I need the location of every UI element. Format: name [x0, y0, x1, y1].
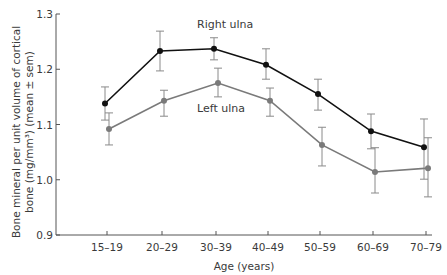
series-left-ulna: Left ulna [105, 68, 432, 197]
data-point-marker [372, 169, 378, 175]
data-point-marker [215, 80, 221, 86]
data-point-marker [319, 142, 325, 148]
data-point-marker [368, 128, 374, 134]
x-tick-label: 70–79 [410, 241, 442, 253]
x-tick-label: 50–59 [304, 241, 336, 253]
data-point-marker [211, 46, 217, 52]
x-tick-label: 30–39 [200, 241, 232, 253]
y-axis: 0.91.01.11.21.3 [36, 8, 60, 241]
data-point-marker [106, 126, 112, 132]
data-point-marker [267, 98, 273, 104]
data-point-marker [263, 62, 269, 68]
series-layer: Right ulnaLeft ulna [101, 18, 432, 197]
x-tick-label: 40–49 [252, 241, 284, 253]
series-line [109, 83, 428, 172]
data-point-marker [421, 144, 427, 150]
y-tick-label: 1.3 [36, 8, 53, 20]
chart-svg: 0.91.01.11.21.3 15–1920–2930–3940–4950–5… [0, 0, 447, 275]
data-point-marker [102, 101, 108, 107]
y-axis-title-line2: bone (mg/mm³) (mean ± sem) [23, 51, 35, 213]
bone-mineral-line-chart: 0.91.01.11.21.3 15–1920–2930–3940–4950–5… [0, 0, 447, 275]
data-point-marker [425, 165, 431, 171]
y-tick-label: 0.9 [36, 229, 53, 241]
y-tick-label: 1.1 [36, 119, 53, 131]
y-axis-title-line1: Bone mineral per unit volume of cortical [10, 26, 22, 238]
x-axis: 15–1920–2930–3940–4950–5960–6970–79 [56, 231, 442, 253]
data-point-marker [161, 98, 167, 104]
x-tick-label: 60–69 [357, 241, 389, 253]
x-tick-label: 20–29 [146, 241, 178, 253]
y-tick-label: 1.2 [36, 63, 53, 75]
series-label: Left ulna [197, 102, 245, 115]
data-point-marker [157, 48, 163, 54]
series-label: Right ulna [197, 18, 253, 31]
x-axis-title: Age (years) [214, 260, 275, 272]
x-tick-label: 15–19 [91, 241, 123, 253]
data-point-marker [315, 91, 321, 97]
y-tick-label: 1.0 [36, 174, 53, 186]
